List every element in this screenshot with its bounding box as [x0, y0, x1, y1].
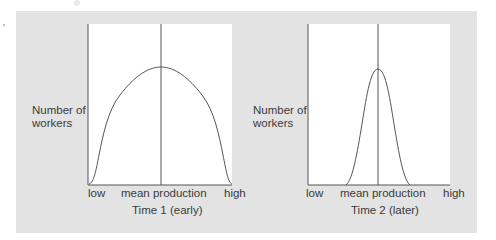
ylabel-time-1-line2: workers — [32, 117, 72, 130]
tick-low-time-2: low — [306, 187, 323, 200]
ylabel-time-2-line1: Number of — [253, 104, 307, 117]
caption-time-1: Time 1 (early) — [132, 204, 203, 217]
plot-time-1 — [88, 24, 232, 185]
ylabel-time-1-line1: Number of — [32, 104, 86, 117]
caption-time-2: Time 2 (later) — [351, 204, 419, 217]
tick-high-time-2: high — [443, 187, 465, 200]
ylabel-time-2-line2: workers — [253, 117, 293, 130]
tick-low-time-1: low — [88, 187, 105, 200]
plot-time-2 — [308, 24, 450, 185]
tick-mean-time-2: mean production — [340, 187, 426, 200]
plot-area-time-2 — [308, 24, 450, 185]
tick-high-time-1: high — [224, 187, 246, 200]
plot-area-time-1 — [88, 24, 232, 185]
distribution-plots — [0, 0, 496, 240]
tick-mean-time-1: mean production — [121, 187, 207, 200]
